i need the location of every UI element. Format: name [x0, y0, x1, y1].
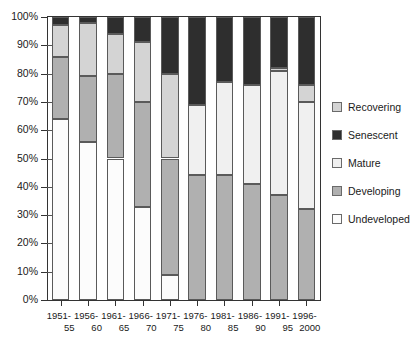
bar-segment-developing[interactable]	[52, 57, 70, 119]
legend-item-senescent[interactable]: Senescent	[332, 128, 408, 156]
x-axis-tick-label-line2: 75	[156, 322, 186, 334]
bar-stack[interactable]	[134, 17, 152, 300]
x-axis-tick-mark	[61, 301, 62, 306]
bar-segment-developing[interactable]	[243, 184, 261, 300]
x-axis-tick-label-line1: 1971-	[156, 310, 186, 322]
bar-segment-senescent[interactable]	[216, 17, 234, 82]
y-axis-tick-label: 90%	[17, 38, 38, 50]
y-axis-tick-label: 40%	[17, 180, 38, 192]
legend-item-mature[interactable]: Mature	[332, 156, 408, 184]
x-axis-tick-label-line1: 1966-	[129, 310, 159, 322]
bar-segment-undeveloped[interactable]	[134, 207, 152, 300]
bar-segment-recovering[interactable]	[161, 74, 179, 159]
x-axis-tick-label-line1: 1951-	[47, 310, 77, 322]
y-axis-tick-label: 80%	[17, 67, 38, 79]
bar-segment-mature[interactable]	[188, 105, 206, 176]
y-axis-tick-label: 60%	[17, 123, 38, 135]
bar-segment-recovering[interactable]	[270, 68, 288, 71]
bar-stack[interactable]	[188, 17, 206, 300]
chart-legend: RecoveringSenescentMatureDevelopingUndev…	[332, 100, 408, 240]
y-axis-tick-label: 30%	[17, 208, 38, 220]
x-axis-tick-label-line2: 70	[129, 322, 159, 334]
legend-item-developing[interactable]: Developing	[332, 184, 408, 212]
bar-segment-senescent[interactable]	[134, 17, 152, 42]
x-axis-tick-label: 1996-2000	[292, 310, 322, 334]
y-axis-tick-label: 70%	[17, 95, 38, 107]
bar-segment-senescent[interactable]	[107, 17, 125, 34]
bar-segment-recovering[interactable]	[298, 85, 316, 102]
x-axis-tick-mark	[252, 301, 253, 306]
bar-segment-developing[interactable]	[270, 195, 288, 300]
bar-stack[interactable]	[298, 17, 316, 300]
legend-swatch-icon	[332, 214, 342, 224]
legend-item-recovering[interactable]: Recovering	[332, 100, 408, 128]
bar-segment-recovering[interactable]	[79, 23, 97, 77]
bar-segment-senescent[interactable]	[298, 17, 316, 85]
bar-segment-senescent[interactable]	[188, 17, 206, 105]
x-axis-tick-label-line2: 65	[101, 322, 131, 334]
bar-segment-developing[interactable]	[161, 159, 179, 275]
bar-segment-mature[interactable]	[216, 82, 234, 175]
bar-stack[interactable]	[107, 17, 125, 300]
x-axis-tick-label-line1: 1986-	[238, 310, 268, 322]
x-axis-tick-label-line1: 1976-	[183, 310, 213, 322]
x-axis-tick-label: 1951-55	[47, 310, 77, 334]
bar-segment-undeveloped[interactable]	[161, 275, 179, 300]
x-axis-tick-label-line2: 80	[183, 322, 213, 334]
bar-segment-senescent[interactable]	[79, 17, 97, 23]
x-axis-tick-label: 1966-70	[129, 310, 159, 334]
bar-segment-undeveloped[interactable]	[52, 119, 70, 300]
bar-segment-mature[interactable]	[243, 85, 261, 184]
y-axis-tick-label: 50%	[17, 152, 38, 164]
bar-segment-undeveloped[interactable]	[79, 142, 97, 300]
bar-segment-recovering[interactable]	[134, 42, 152, 101]
legend-label: Developing	[348, 184, 401, 198]
y-axis-tick-label: 0%	[23, 293, 38, 305]
bar-stack[interactable]	[243, 17, 261, 300]
x-axis-tick-label-line1: 1961-	[101, 310, 131, 322]
bar-stack[interactable]	[52, 17, 70, 300]
bar-segment-senescent[interactable]	[52, 17, 70, 25]
bar-segment-mature[interactable]	[298, 102, 316, 210]
bar-segment-developing[interactable]	[298, 209, 316, 300]
x-axis-tick-label-line2: 95	[265, 322, 295, 334]
x-axis-tick-label: 1961-65	[101, 310, 131, 334]
bar-segment-mature[interactable]	[270, 71, 288, 196]
x-axis-tick-label-line1: 1981-	[210, 310, 240, 322]
bar-segment-developing[interactable]	[79, 76, 97, 141]
x-axis-tick-mark	[279, 301, 280, 306]
bar-stack[interactable]	[270, 17, 288, 300]
bar-segment-senescent[interactable]	[270, 17, 288, 68]
x-axis-tick-label-line1: 1996-	[292, 310, 322, 322]
bar-segment-developing[interactable]	[107, 74, 125, 159]
bar-segment-senescent[interactable]	[161, 17, 179, 74]
y-axis-tick-label: 10%	[17, 265, 38, 277]
x-axis-tick-label-line2: 55	[47, 322, 77, 334]
legend-label: Recovering	[348, 100, 401, 114]
legend-swatch-icon	[332, 102, 342, 112]
bar-segment-recovering[interactable]	[52, 25, 70, 56]
legend-swatch-icon	[332, 158, 342, 168]
x-axis-tick-label: 1976-80	[183, 310, 213, 334]
x-axis-tick-mark	[170, 301, 171, 306]
x-axis-tick-mark	[115, 301, 116, 306]
bar-segment-developing[interactable]	[216, 175, 234, 300]
bar-segment-senescent[interactable]	[243, 17, 261, 85]
bar-stack[interactable]	[79, 17, 97, 300]
bar-segment-developing[interactable]	[134, 102, 152, 207]
bar-segment-undeveloped[interactable]	[107, 159, 125, 301]
x-axis-tick-label-line2: 60	[74, 322, 104, 334]
legend-swatch-icon	[332, 130, 342, 140]
bar-segment-recovering[interactable]	[107, 34, 125, 74]
bar-stack[interactable]	[161, 17, 179, 300]
x-axis-tick-label: 1971-75	[156, 310, 186, 334]
bar-segment-developing[interactable]	[188, 175, 206, 300]
bar-stack[interactable]	[216, 17, 234, 300]
legend-label: Undeveloped	[348, 212, 410, 226]
legend-item-undeveloped[interactable]: Undeveloped	[332, 212, 408, 240]
x-axis-tick-label: 1956-60	[74, 310, 104, 334]
x-axis-tick-label-line2: 85	[210, 322, 240, 334]
x-axis-tick-mark	[143, 301, 144, 306]
x-axis-tick-label: 1981-85	[210, 310, 240, 334]
